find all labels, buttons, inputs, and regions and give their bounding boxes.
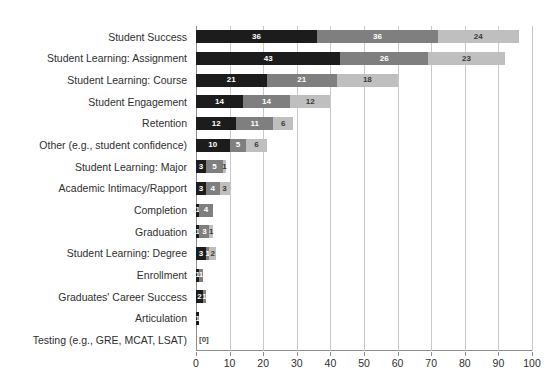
bar-segment[interactable]: 6: [273, 117, 293, 130]
bar-row[interactable]: 212118: [196, 74, 532, 87]
bar-value-label: 3: [199, 250, 203, 258]
bar-segment[interactable]: 14: [243, 95, 290, 108]
bar-segment[interactable]: 12: [290, 95, 330, 108]
bar-segment[interactable]: 3: [220, 182, 230, 195]
bar-segment[interactable]: 5: [230, 139, 247, 152]
bar-segment[interactable]: 36: [317, 30, 438, 43]
bar-segment[interactable]: 1: [223, 160, 226, 173]
y-axis-label: Student Success: [0, 26, 191, 48]
bar-segment[interactable]: 43: [196, 52, 340, 65]
bar-value-label: 12: [306, 98, 315, 106]
gridline-100: [532, 26, 533, 351]
bar-segment[interactable]: 3: [196, 247, 206, 260]
bar-segment[interactable]: 4: [206, 182, 219, 195]
bar-row[interactable]: 1056: [196, 139, 532, 152]
bar-segment[interactable]: 24: [438, 30, 519, 43]
bar-segment[interactable]: 1: [196, 312, 199, 325]
y-axis-category-labels: Student SuccessStudent Learning: Assignm…: [0, 26, 191, 351]
tickmark-100: [532, 352, 533, 356]
tickmark-80: [465, 352, 466, 356]
bar-value-label: 14: [262, 98, 271, 106]
bar-value-label: 18: [363, 76, 372, 84]
tickmark-20: [263, 352, 264, 356]
bar-row[interactable]: 312: [196, 247, 532, 260]
bar-value-label: 23: [462, 55, 471, 63]
bar-row[interactable]: 432623: [196, 52, 532, 65]
y-axis-label: Student Learning: Degree: [0, 243, 191, 265]
bar-row[interactable]: 131: [196, 225, 532, 238]
bar-segment[interactable]: 4: [199, 204, 212, 217]
bar-segment[interactable]: 12: [196, 117, 236, 130]
bar-row[interactable]: 14: [196, 204, 532, 217]
bar-row[interactable]: 141412: [196, 95, 532, 108]
bar-value-label: 3: [222, 185, 226, 193]
bar-segment[interactable]: 14: [196, 95, 243, 108]
y-axis-label: Academic Intimacy/Rapport: [0, 178, 191, 200]
bar-row[interactable]: 1: [196, 312, 532, 325]
bar-value-label: 5: [212, 163, 216, 171]
bar-row[interactable]: 12116: [196, 117, 532, 130]
bar-value-label: 3: [199, 185, 203, 193]
x-tick-label-20: 20: [257, 357, 269, 369]
bar-segment[interactable]: 21: [267, 74, 338, 87]
bar-segment[interactable]: 26: [340, 52, 427, 65]
bar-value-label: 24: [474, 33, 483, 41]
bar-segment[interactable]: 1: [199, 269, 202, 282]
tickmark-30: [297, 352, 298, 356]
bar-segment[interactable]: 11: [236, 117, 273, 130]
x-axis-tick-labels: 0102030405060708090100: [196, 352, 532, 374]
bar-segment[interactable]: 2: [196, 290, 203, 303]
y-axis-label: Testing (e.g., GRE, MCAT, LSAT): [0, 329, 191, 351]
y-axis-label: Graduates' Career Success: [0, 286, 191, 308]
bar-value-label: 26: [380, 55, 389, 63]
x-tick-label-100: 100: [523, 357, 541, 369]
bar-value-label: 1: [199, 271, 203, 279]
bar-value-label: 1: [202, 293, 206, 301]
bar-value-label: 10: [208, 141, 217, 149]
x-tick-label-40: 40: [325, 357, 337, 369]
bar-segment[interactable]: 10: [196, 139, 230, 152]
x-tick-label-70: 70: [425, 357, 437, 369]
y-axis-label: Completion: [0, 199, 191, 221]
bar-segment[interactable]: 21: [196, 74, 267, 87]
bar-value-label: 21: [297, 76, 306, 84]
tickmark-60: [398, 352, 399, 356]
y-axis-label: Enrollment: [0, 264, 191, 286]
bar-segment[interactable]: 36: [196, 30, 317, 43]
bar-value-label: 1: [222, 163, 226, 171]
bar-value-label: 2: [211, 250, 215, 258]
bar-row[interactable]: 363624: [196, 30, 532, 43]
bar-segment[interactable]: 18: [337, 74, 397, 87]
x-tick-label-80: 80: [459, 357, 471, 369]
bar-value-label: 11: [251, 120, 259, 128]
bar-segment[interactable]: 2: [209, 247, 216, 260]
bar-segment[interactable]: 1: [209, 225, 212, 238]
bar-value-label: 4: [204, 206, 208, 214]
y-axis-label: Graduation: [0, 221, 191, 243]
bar-row[interactable]: 351: [196, 160, 532, 173]
bar-segment[interactable]: 3: [196, 182, 206, 195]
bar-segment[interactable]: 23: [428, 52, 505, 65]
bar-segment[interactable]: 3: [199, 225, 209, 238]
bar-value-label: 2: [197, 293, 201, 301]
zero-value-label: [0]: [199, 336, 209, 344]
bar-row[interactable]: 11: [196, 269, 532, 282]
bar-row[interactable]: 21: [196, 290, 532, 303]
plot-area: 3636244326232121181414121211610563513431…: [196, 26, 532, 351]
bar-segment[interactable]: 3: [196, 160, 206, 173]
tickmark-50: [364, 352, 365, 356]
bar-segment[interactable]: 5: [206, 160, 223, 173]
x-tick-label-0: 0: [193, 357, 199, 369]
bar-segment[interactable]: 1: [203, 290, 206, 303]
tickmark-0: [196, 352, 197, 356]
x-tick-label-10: 10: [224, 357, 236, 369]
chart-title: [0, 0, 558, 3]
bar-row[interactable]: 343: [196, 182, 532, 195]
bar-value-label: 36: [373, 33, 382, 41]
y-axis-label: Student Learning: Major: [0, 156, 191, 178]
bar-row[interactable]: [0]: [196, 334, 532, 347]
bar-segment[interactable]: 6: [246, 139, 266, 152]
tickmark-40: [330, 352, 331, 356]
bar-value-label: 21: [227, 76, 236, 84]
tickmark-70: [431, 352, 432, 356]
